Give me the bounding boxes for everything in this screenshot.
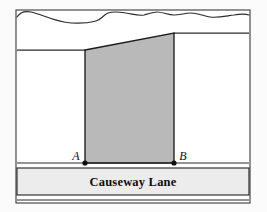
point-a-dot: [82, 160, 87, 165]
causeway-lane-label: Causeway Lane: [90, 175, 177, 189]
point-b-label: B: [179, 149, 187, 163]
point-b-dot: [171, 160, 176, 165]
plot-diagram-svg: A B Causeway Lane: [0, 0, 267, 212]
point-a-label: A: [71, 149, 80, 163]
figure-container: A B Causeway Lane: [0, 0, 267, 212]
shaded-plot-region: [85, 33, 174, 163]
